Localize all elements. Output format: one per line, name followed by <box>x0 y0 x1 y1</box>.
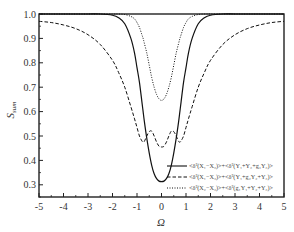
legend-label: <δ²(X₂−X₃)>+<δ²(g₁Y₁+Y₂+Y₃)> <box>189 184 274 192</box>
x-tick-label: 0 <box>159 201 164 212</box>
x-tick-label: -2 <box>108 201 116 212</box>
x-tick-label: 2 <box>208 201 213 212</box>
y-tick-label: 0.5 <box>24 131 37 142</box>
x-tick-label: -5 <box>35 201 43 212</box>
y-tick-label: 1.0 <box>24 9 37 20</box>
y-tick-label: 0.8 <box>24 57 37 68</box>
y-tick-label: 0.9 <box>24 33 37 44</box>
y-tick-label: 0.4 <box>24 155 37 166</box>
x-tick-label: 1 <box>184 201 189 212</box>
legend: <δ²(X₁−X₂)>+<δ²(Y₁+Y₂+g₃Y₃)><δ²(X₁−X₃)>+… <box>167 162 274 192</box>
legend-label: <δ²(X₁−X₂)>+<δ²(Y₁+Y₂+g₃Y₃)> <box>189 162 274 170</box>
y-axis-title-sub: sum <box>10 102 18 113</box>
series-line-dotted <box>39 14 284 100</box>
y-axis-ticks: 0.30.40.50.60.70.80.91.0 <box>24 9 44 198</box>
series-line-dashed <box>39 21 284 147</box>
svg-text:Ssum: Ssum <box>4 102 18 119</box>
x-tick-label: 5 <box>282 201 287 212</box>
line-chart: -5-4-3-2-1012345 0.30.40.50.60.70.80.91.… <box>0 0 294 232</box>
series-layer <box>39 14 284 182</box>
y-tick-label: 0.7 <box>24 82 37 93</box>
x-axis-title: Ω <box>157 216 165 228</box>
y-axis-title: Ssum <box>4 102 18 119</box>
x-tick-label: -4 <box>59 201 67 212</box>
legend-label: <δ²(X₁−X₃)>+<δ²(Y₁+g₂Y₂+Y₃)> <box>189 173 274 181</box>
x-tick-label: 4 <box>257 201 262 212</box>
x-tick-label: -3 <box>84 201 92 212</box>
x-axis-ticks: -5-4-3-2-1012345 <box>35 193 287 212</box>
plot-frame <box>39 14 284 197</box>
y-tick-label: 0.3 <box>24 179 37 190</box>
x-tick-label: 3 <box>233 201 238 212</box>
series-line-solid <box>39 14 284 182</box>
y-tick-label: 0.6 <box>24 106 37 117</box>
plot-area-border <box>39 14 284 197</box>
x-tick-label: -1 <box>133 201 141 212</box>
